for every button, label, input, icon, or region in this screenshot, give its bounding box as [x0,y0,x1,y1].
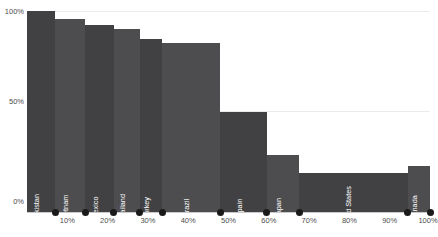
bar-label-japan: Japan [275,198,283,218]
x-tick-label-90: 90% [382,216,397,225]
x-tick-label-100: 100% [418,216,437,225]
x-marker-spain[interactable] [263,209,270,216]
y-tick-label-50: 50% [0,97,24,106]
x-marker-thailand[interactable] [136,209,143,216]
x-marker-turkey[interactable] [159,209,166,216]
bar-pakistan[interactable]: Pakistan [27,11,55,212]
x-marker-japan[interactable] [296,209,303,216]
bar-canada[interactable]: Canada [408,166,430,212]
bar-label-spain: Spain [236,199,244,218]
y-tick-label-0: 0% [0,197,24,206]
y-axis: 100% 50% 0% [0,0,27,201]
x-tick-label-60: 60% [261,216,276,225]
x-tick-label-50: 50% [221,216,236,225]
x-tick-label-10: 10% [60,216,75,225]
gridline-100 [27,11,430,12]
x-marker-pakistan[interactable] [52,209,59,216]
plot-area: Pakistan Vietnam Mexico Thailand Turkey … [27,11,430,212]
bar-thailand[interactable]: Thailand [114,29,140,212]
bar-united-states[interactable]: United States [299,173,408,212]
bar-label-thailand: Thailand [119,194,127,222]
x-tick-label-70: 70% [302,216,317,225]
bar-brazil[interactable]: Brazil [162,43,220,212]
x-tick-label-20: 20% [100,216,115,225]
bar-japan[interactable]: Japan [267,155,299,212]
x-tick-label-40: 40% [181,216,196,225]
x-marker-mexico[interactable] [110,209,117,216]
x-marker-vietnam[interactable] [82,209,89,216]
x-tick-label-80: 80% [342,216,357,225]
bar-label-brazil: Brazil [183,199,191,217]
x-marker-canada[interactable] [427,209,434,216]
bar-label-pakistan: Pakistan [33,194,41,222]
bar-turkey[interactable]: Turkey [140,39,162,212]
bar-spain[interactable]: Spain [220,112,266,212]
x-marker-united-states[interactable] [404,209,411,216]
bar-mexico[interactable]: Mexico [85,25,113,212]
bar-vietnam[interactable]: Vietnam [55,19,85,212]
bar-label-mexico: Mexico [92,196,100,219]
x-marker-brazil[interactable] [217,209,224,216]
y-tick-label-100: 100% [0,7,24,16]
x-tick-label-30: 30% [140,216,155,225]
